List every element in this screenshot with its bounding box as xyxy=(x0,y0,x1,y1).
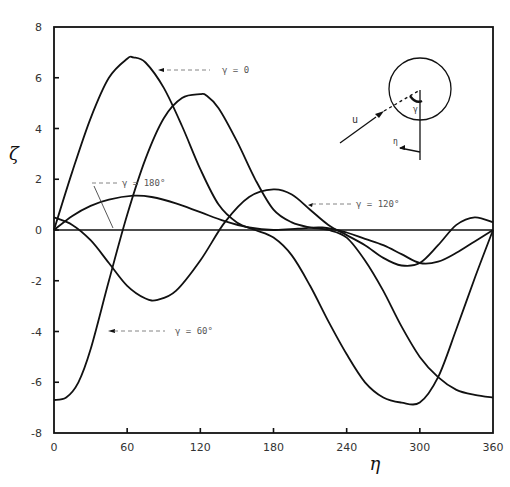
y-tick-label: 6 xyxy=(35,72,42,85)
series-line-1 xyxy=(54,94,493,400)
inset-label-u: u xyxy=(352,114,358,125)
y-axis-title: ζ xyxy=(9,143,20,164)
y-tick-label: -2 xyxy=(31,275,42,288)
x-tick-label: 60 xyxy=(120,441,134,454)
annotation-gamma-0: γ = 0 xyxy=(158,65,249,75)
annotation-gamma-180: γ = 180° xyxy=(92,178,165,228)
inset-label-eta: η xyxy=(393,137,398,146)
x-axis-title: η xyxy=(370,453,381,474)
x-tick-label: 0 xyxy=(51,441,58,454)
annotation-label: γ = 120° xyxy=(356,199,399,209)
x-tick-label: 180 xyxy=(263,441,284,454)
x-tick-label: 240 xyxy=(336,441,357,454)
annotation-gamma-120: γ = 120° xyxy=(308,199,399,209)
inset-diagram: u γ η xyxy=(340,58,451,160)
eta-arrow-icon xyxy=(399,145,405,150)
series-line-2 xyxy=(54,189,493,300)
y-tick-label: 2 xyxy=(35,173,42,186)
y-tick-label: -4 xyxy=(31,326,42,339)
y-tick-label: -6 xyxy=(31,376,42,389)
y-tick-label: 8 xyxy=(35,21,42,34)
y-tick-label: 4 xyxy=(35,123,42,136)
x-tick-label: 120 xyxy=(190,441,211,454)
x-tick-label: 300 xyxy=(409,441,430,454)
inset-label-gamma: γ xyxy=(413,105,418,114)
annotation-label: γ = 180° xyxy=(122,178,165,188)
x-tick-label: 360 xyxy=(483,441,504,454)
axes: 060120180240300360-8-6-4-202468 xyxy=(31,21,503,454)
annotation-label: γ = 0 xyxy=(222,65,249,75)
y-tick-label: -8 xyxy=(31,427,42,440)
y-tick-label: 0 xyxy=(35,224,42,237)
chart: 060120180240300360-8-6-4-202468 ζ η γ = … xyxy=(0,0,510,487)
annotation-gamma-60: γ = 60° xyxy=(108,326,213,336)
annotation-label: γ = 60° xyxy=(175,326,213,336)
wave-arrow-icon xyxy=(375,111,384,118)
